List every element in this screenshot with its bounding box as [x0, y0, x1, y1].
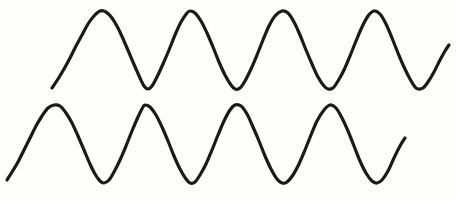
- figure-canvas: [0, 0, 456, 199]
- wave-diagram: [0, 0, 456, 199]
